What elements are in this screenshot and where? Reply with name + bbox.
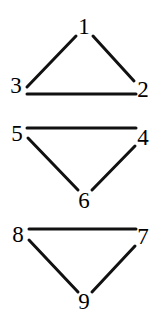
edge-3-1 bbox=[27, 36, 76, 87]
edge-8-9 bbox=[29, 240, 78, 292]
node-label-7: 7 bbox=[137, 225, 149, 248]
node-label-4: 4 bbox=[137, 126, 149, 149]
edge-1-2 bbox=[93, 36, 134, 81]
node-label-9: 9 bbox=[78, 290, 90, 313]
edge-9-7 bbox=[92, 246, 135, 292]
edge-5-6 bbox=[28, 138, 78, 190]
edge-6-4 bbox=[92, 146, 135, 190]
node-label-3: 3 bbox=[10, 74, 22, 97]
graph-diagram: 123456789 bbox=[0, 0, 163, 322]
node-label-8: 8 bbox=[12, 223, 24, 246]
node-label-5: 5 bbox=[11, 122, 23, 145]
node-label-2: 2 bbox=[137, 78, 149, 101]
node-label-6: 6 bbox=[78, 189, 90, 212]
graph-edges-canvas bbox=[0, 0, 163, 322]
node-label-1: 1 bbox=[78, 15, 90, 38]
